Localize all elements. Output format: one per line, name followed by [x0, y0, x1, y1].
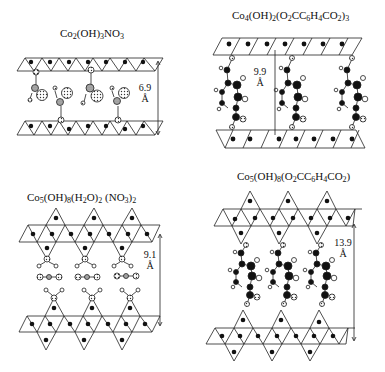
interlayer-distance-arrow: [156, 61, 160, 135]
hydroxide-layer-bottom: [19, 298, 160, 350]
panel-co4-terephthalate: [213, 38, 368, 148]
spacing-label-9-9: 9.9Å: [251, 66, 269, 88]
crystal-structures-figure: [0, 0, 385, 372]
terephthalate-molecules: [214, 56, 368, 130]
hydroxide-layer-bottom: [216, 130, 365, 148]
spacing-label-6-9: 6.9Å: [136, 82, 154, 104]
hydroxide-layer-bottom: [206, 310, 355, 361]
terephthalate-molecules: [228, 243, 337, 307]
panel-title-co5-aqua-nitrate: Co5(OH)8(H2O)2 (NO3)2: [27, 191, 136, 205]
panel-title-co2-oh3-no3: Co2(OH)3NO3: [60, 27, 124, 41]
panel-co5-aqua-nitrate: [19, 208, 162, 350]
interlayer-distance-arrow: [158, 234, 162, 326]
nitrate-anions: [28, 67, 130, 123]
panel-title-co5-terephthalate: Co5(OH)8(O2CC6H4CO2): [237, 170, 350, 184]
hydroxide-layer-top: [19, 208, 160, 259]
spacing-label-9-1: 9.1Å: [141, 249, 159, 271]
hydroxide-layer-top: [213, 38, 362, 55]
hydroxide-layer-bottom: [17, 121, 163, 135]
spacing-label-13-9: 13.9Å: [332, 237, 354, 259]
panel-title-co4-terephthalate: Co4(OH)2(O2CC6H4CO2)3: [232, 9, 349, 23]
water-and-nitrate-species: [37, 256, 140, 301]
panel-co5-terephthalate: [206, 191, 362, 361]
